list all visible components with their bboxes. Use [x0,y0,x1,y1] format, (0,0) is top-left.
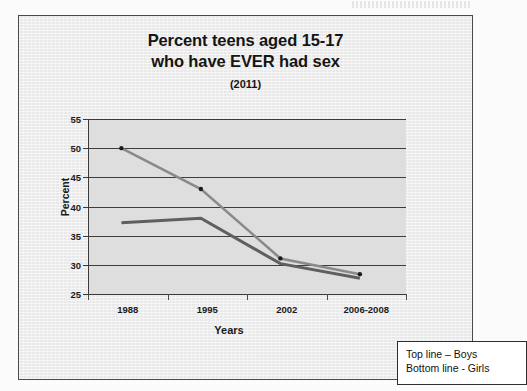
legend-item-girls: Bottom line - Girls [406,361,526,375]
legend-item-boys: Top line – Boys [406,347,526,361]
x-tick-label-1988: 1988 [88,304,168,315]
x-tick-label-2002: 2002 [247,304,327,315]
data-series-layer [88,119,406,294]
y-tick-label-25: 25 [53,289,81,300]
data-point-marker [358,272,362,276]
chart-title-line-2: who have EVER had sex [19,51,472,72]
x-tick-0 [88,294,89,300]
x-axis-title: Years [69,324,389,336]
y-tick-label-30: 30 [53,260,81,271]
x-tick-3 [327,294,328,300]
y-tick-label-50: 50 [53,143,81,154]
line-series-boys [121,148,360,274]
scan-artifact-smudge [352,1,472,8]
y-tick-label-55: 55 [53,114,81,125]
y-tick-label-45: 45 [53,172,81,183]
chart-subtitle-year: (2011) [19,78,472,90]
x-tick-4 [406,294,407,300]
legend-callout: Top line – Boys Bottom line - Girls [397,341,527,385]
y-tick-label-35: 35 [53,231,81,242]
x-tick-1 [168,294,169,300]
x-tick-label-1995: 1995 [168,304,248,315]
data-point-marker [119,146,123,150]
data-point-marker [199,187,203,191]
data-point-marker [278,256,282,260]
y-tick-label-40: 40 [53,202,81,213]
chart-container: Percent teens aged 15-17 who have EVER h… [18,15,473,380]
x-tick-label-2006-2008: 2006-2008 [327,304,407,315]
chart-title-line-1: Percent teens aged 15-17 [19,30,472,51]
line-series-girls [121,218,360,278]
chart-title: Percent teens aged 15-17 who have EVER h… [19,30,472,72]
x-tick-2 [247,294,248,300]
